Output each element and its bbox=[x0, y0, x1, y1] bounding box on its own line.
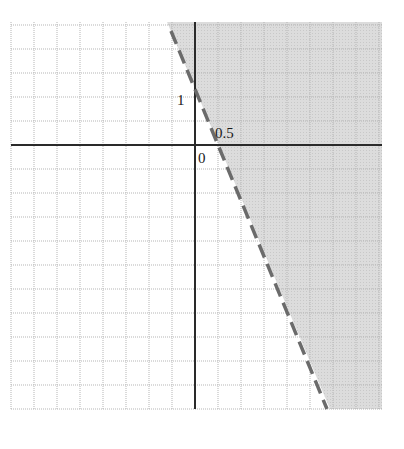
origin-label: 0 bbox=[198, 150, 206, 166]
x-intercept-label: 0.5 bbox=[215, 125, 234, 141]
y-intercept-label: 1 bbox=[177, 92, 185, 108]
inequality-graph: 1 0.5 0 bbox=[0, 0, 404, 449]
shaded-region bbox=[167, 22, 382, 409]
